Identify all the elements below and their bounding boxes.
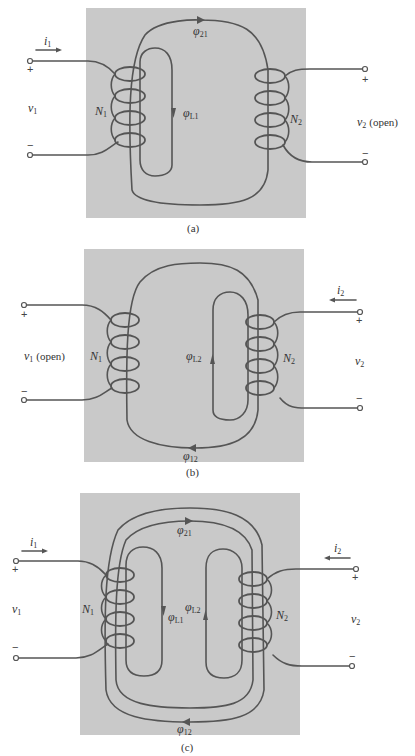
terminal-minus-left-b[interactable] xyxy=(22,398,27,403)
current-i2-label-c: i2 xyxy=(334,541,341,556)
minus-sign-right-a: − xyxy=(362,147,368,159)
current-arrow-head-b xyxy=(329,298,335,303)
minus-sign-right-c: − xyxy=(349,650,355,662)
panel-a: i1 + − + − v1 v2(open) N1 N2 φ21 φL1 (a) xyxy=(27,8,398,235)
current-label-b: i2 xyxy=(337,283,344,298)
terminal-minus-left-c[interactable] xyxy=(14,656,19,661)
terminal-minus-right-a[interactable] xyxy=(363,160,368,165)
plus-sign-right-c: + xyxy=(352,571,358,583)
caption-b: (b) xyxy=(186,466,199,479)
voltage-v1-label-a: v1 xyxy=(28,101,37,116)
current-arrow-head-left-c xyxy=(42,549,48,554)
minus-sign-left-c: − xyxy=(12,641,18,653)
plus-sign-left-b: + xyxy=(21,308,27,320)
voltage-v2-label-b: v2 xyxy=(355,354,364,369)
terminal-minus-right-c[interactable] xyxy=(350,664,355,669)
terminal-minus-right-b[interactable] xyxy=(358,406,363,411)
terminal-minus-left-a[interactable] xyxy=(28,153,33,158)
plus-sign-right-b: + xyxy=(356,314,362,326)
current-arrow-head-a xyxy=(56,48,62,53)
voltage-v2-label-a: v2(open) xyxy=(357,115,398,130)
voltage-v1-label-b: v1(open) xyxy=(24,349,65,364)
caption-c: (c) xyxy=(181,741,194,754)
current-i1-label-c: i1 xyxy=(30,535,37,550)
voltage-v1-label-c: v1 xyxy=(12,602,21,617)
minus-sign-left-b: − xyxy=(21,385,27,397)
plus-sign-right-a: + xyxy=(362,73,368,85)
terminal-plus-right-a[interactable] xyxy=(363,67,368,72)
current-arrow-head-right-c xyxy=(324,556,330,561)
panel-b: i2 + − + − v1(open) v2 N1 N2 φL2 φ12 (b) xyxy=(21,249,364,479)
plus-sign-left-a: + xyxy=(27,63,33,75)
voltage-v2-label-c: v2 xyxy=(351,612,360,627)
current-label-a: i1 xyxy=(44,34,51,49)
panel-c: i1 i2 + − + − v1 v2 N1 N2 φ21 φL1 φL2 φ1… xyxy=(12,493,360,754)
plus-sign-left-c: + xyxy=(12,563,18,575)
terminal-plus-left-b[interactable] xyxy=(22,303,27,308)
minus-sign-right-b: − xyxy=(356,392,362,404)
caption-a: (a) xyxy=(187,222,200,235)
coupled-coils-figure: i1 + − + − v1 v2(open) N1 N2 φ21 φL1 (a) xyxy=(0,0,415,756)
minus-sign-left-a: − xyxy=(27,139,33,151)
